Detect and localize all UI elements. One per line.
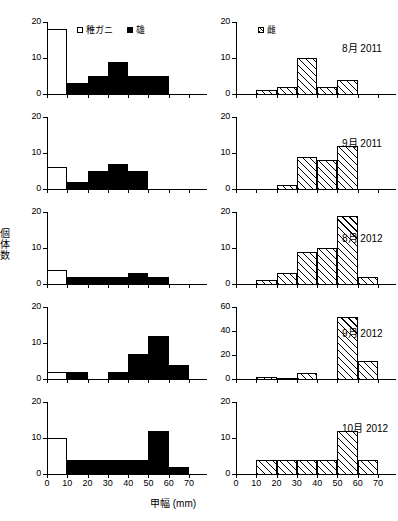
x-axis-tick bbox=[88, 190, 89, 193]
y-axis-tick bbox=[43, 117, 47, 118]
histogram-bar bbox=[297, 157, 317, 189]
histogram-bar bbox=[47, 29, 67, 94]
x-axis-tick bbox=[108, 380, 109, 383]
y-axis-tick bbox=[232, 284, 236, 285]
x-axis-tick bbox=[297, 190, 298, 193]
x-axis-line bbox=[47, 94, 207, 95]
y-axis-line bbox=[236, 307, 237, 379]
y-axis-tick-label: 10 bbox=[14, 433, 41, 442]
x-axis-tick-label: 0 bbox=[38, 479, 56, 488]
y-axis-tick bbox=[232, 212, 236, 213]
x-axis-tick bbox=[317, 190, 318, 193]
y-axis-tick bbox=[232, 94, 236, 95]
histogram-bar bbox=[277, 378, 297, 379]
panel-date-label: 8月 2011 bbox=[342, 44, 382, 54]
histogram-bar bbox=[256, 460, 276, 474]
x-axis-tick bbox=[236, 190, 237, 193]
histogram-bar bbox=[256, 377, 276, 379]
histogram-bar bbox=[277, 87, 297, 94]
y-axis-line bbox=[236, 117, 237, 189]
x-axis-tick bbox=[148, 190, 149, 193]
histogram-bar bbox=[297, 252, 317, 284]
histogram-bar bbox=[337, 431, 357, 474]
y-axis-tick-label: 20 bbox=[14, 302, 41, 311]
x-axis-label: 甲幅 (mm) bbox=[150, 498, 196, 509]
y-axis-tick-label: 0 bbox=[203, 469, 230, 478]
histogram-bar bbox=[47, 438, 67, 474]
x-axis-tick bbox=[189, 190, 190, 193]
histogram-bar bbox=[148, 76, 168, 94]
x-axis-tick bbox=[317, 285, 318, 288]
histogram-bar bbox=[317, 87, 337, 94]
filled-square-icon bbox=[127, 27, 133, 33]
x-axis-tick-label: 10 bbox=[58, 479, 76, 488]
y-axis-tick-label: 40 bbox=[203, 326, 230, 335]
histogram-bar bbox=[47, 270, 67, 284]
legend-item-male: 雄 bbox=[127, 24, 145, 34]
y-axis-tick-label: 0 bbox=[14, 89, 41, 98]
y-axis-tick bbox=[43, 343, 47, 344]
y-axis-tick bbox=[232, 331, 236, 332]
x-axis-tick bbox=[337, 380, 338, 383]
y-axis-tick bbox=[43, 22, 47, 23]
y-axis-tick-label: 0 bbox=[14, 184, 41, 193]
y-axis-tick-label: 0 bbox=[14, 374, 41, 383]
x-axis-tick bbox=[47, 285, 48, 288]
x-axis-tick-label: 40 bbox=[308, 479, 326, 488]
x-axis-tick bbox=[317, 380, 318, 383]
histogram-bar bbox=[88, 460, 108, 474]
histogram-bar bbox=[358, 361, 378, 379]
panel-date-label: 10月 2012 bbox=[342, 424, 388, 434]
x-axis-tick bbox=[88, 380, 89, 383]
histogram-bar bbox=[47, 167, 67, 189]
y-axis-tick bbox=[232, 58, 236, 59]
y-axis-tick-label: 0 bbox=[203, 374, 230, 383]
x-axis-tick bbox=[337, 95, 338, 98]
x-axis-tick bbox=[189, 380, 190, 383]
y-axis-tick-label: 0 bbox=[203, 89, 230, 98]
histogram-bar bbox=[128, 354, 148, 379]
x-axis-tick bbox=[67, 285, 68, 288]
histogram-bar bbox=[297, 460, 317, 474]
y-axis-tick-label: 10 bbox=[14, 53, 41, 62]
open-square-icon bbox=[77, 27, 83, 33]
x-axis-tick bbox=[236, 380, 237, 383]
x-axis-tick bbox=[358, 380, 359, 383]
x-axis-tick bbox=[256, 95, 257, 98]
y-axis-tick bbox=[232, 474, 236, 475]
x-axis-line bbox=[236, 189, 396, 190]
x-axis-tick bbox=[297, 285, 298, 288]
x-axis-tick bbox=[256, 285, 257, 288]
y-axis-tick bbox=[232, 153, 236, 154]
x-axis-tick bbox=[169, 190, 170, 193]
histogram-bar bbox=[108, 62, 128, 94]
histogram-bar bbox=[108, 372, 128, 379]
panel-date-label: 9月 2011 bbox=[342, 139, 382, 149]
histogram-bar bbox=[128, 273, 148, 284]
x-axis-line bbox=[47, 474, 207, 475]
histogram-bar bbox=[67, 182, 87, 189]
y-axis-tick-label: 20 bbox=[14, 112, 41, 121]
y-axis-label-char: 体 bbox=[0, 239, 11, 250]
y-axis-tick bbox=[43, 153, 47, 154]
x-axis-tick bbox=[297, 380, 298, 383]
histogram-bar bbox=[67, 83, 87, 94]
histogram-bar bbox=[256, 90, 276, 94]
x-axis-tick bbox=[256, 190, 257, 193]
histogram-bar bbox=[88, 76, 108, 94]
histogram-bar bbox=[128, 460, 148, 474]
legend: 稚ガニ雄 bbox=[77, 24, 159, 35]
x-axis-tick-label: 0 bbox=[227, 479, 245, 488]
histogram-bar bbox=[128, 171, 148, 189]
x-axis-tick bbox=[88, 95, 89, 98]
x-axis-tick bbox=[378, 95, 379, 98]
y-axis-tick-label: 20 bbox=[203, 17, 230, 26]
x-axis-tick bbox=[128, 380, 129, 383]
y-axis-tick-label: 20 bbox=[203, 397, 230, 406]
histogram-bar bbox=[297, 373, 317, 379]
histogram-bar bbox=[88, 171, 108, 189]
y-axis-tick bbox=[43, 189, 47, 190]
x-axis-tick-label: 30 bbox=[99, 479, 117, 488]
y-axis-label-char: 個 bbox=[0, 228, 11, 239]
x-axis-tick-label: 30 bbox=[288, 479, 306, 488]
